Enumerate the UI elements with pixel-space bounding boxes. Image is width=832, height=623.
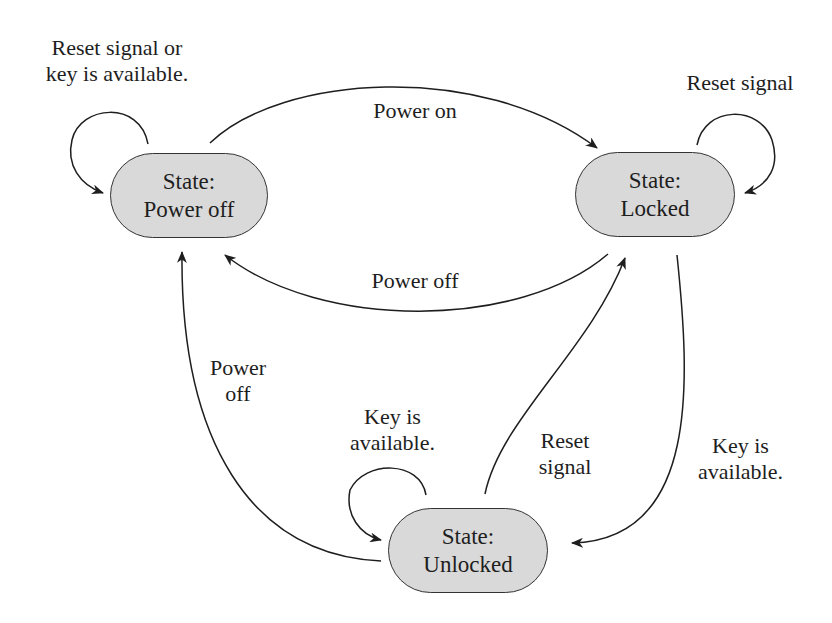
state-label: State: [163,168,215,196]
state-label: State: [442,523,494,551]
state-name: Power off [144,196,235,224]
label-locked-to-poweroff: Power off [360,268,470,294]
state-locked: State: Locked [575,152,735,237]
state-name: Locked [621,195,690,223]
label-unlocked-to-locked: Reset signal [525,428,605,480]
label-locked-to-unlocked: Key is available. [683,433,798,485]
label-power-on: Power on [360,98,470,124]
label-unlocked-to-poweroff: Power off [198,355,278,407]
state-name: Unlocked [423,551,512,579]
label-poweroff-self: Reset signal or key is available. [22,35,212,87]
state-unlocked: State: Unlocked [388,508,548,593]
arrow-locked-to-unlocked [572,255,684,543]
state-label: State: [629,167,681,195]
state-power-off: State: Power off [110,153,268,238]
label-locked-self: Reset signal [670,70,810,96]
label-unlocked-self: Key is available. [335,404,450,456]
